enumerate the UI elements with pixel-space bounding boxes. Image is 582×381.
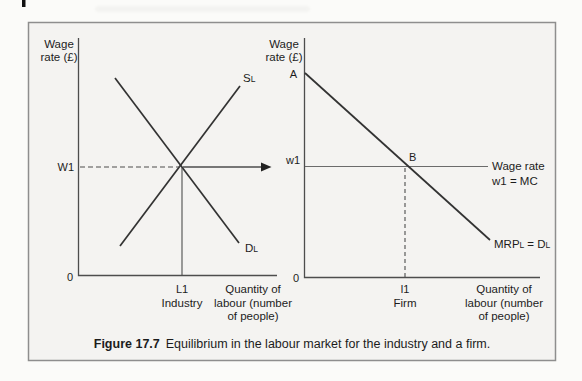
industry-x-axis-title-line3: of people) xyxy=(227,310,278,322)
firm-mrpl-curve-label: MRPL= DL xyxy=(494,238,551,250)
figure-caption: Figure 17.7Equilibrium in the labour mar… xyxy=(94,337,490,351)
industry-x-axis-title-line1: Quantity of xyxy=(225,283,281,295)
industry-wage-level-label: W1 xyxy=(58,161,75,173)
labour-market-diagram: Wage rate (£) W1 0 SL DL L1 Industry Qua… xyxy=(0,0,582,381)
industry-x-axis-title-line2: labour (number xyxy=(214,297,292,309)
firm-point-a-label: A xyxy=(290,68,298,80)
corner-tick-mark xyxy=(22,0,26,7)
firm-x-axis-title-line3: of people) xyxy=(478,310,529,322)
firm-wage-line-label-line2: w1 = MC xyxy=(491,175,538,187)
industry-demand-curve-label: DL xyxy=(245,242,258,254)
firm-panel-name: Firm xyxy=(394,297,417,309)
firm-x-axis-title-line2: labour (number xyxy=(465,297,543,309)
firm-y-axis-title-line2: rate (£) xyxy=(265,51,302,63)
industry-panel-name: Industry xyxy=(162,297,203,309)
figure-caption-text: Equilibrium in the labour market for the… xyxy=(166,337,490,351)
industry-y-axis-title-line2: rate (£) xyxy=(40,51,77,63)
firm-quantity-tick-label: l1 xyxy=(401,283,410,295)
firm-point-b-label: B xyxy=(409,151,416,163)
industry-y-axis-title-line1: Wage xyxy=(44,38,74,50)
firm-y-axis-title-line1: Wage xyxy=(269,38,299,50)
firm-wage-line-label-line1: Wage rate xyxy=(492,160,545,172)
industry-origin-label: 0 xyxy=(67,271,73,283)
firm-wage-level-label: w1 xyxy=(285,154,300,166)
industry-supply-curve-label: SL xyxy=(243,72,256,84)
firm-x-axis-title-line1: Quantity of xyxy=(476,283,532,295)
industry-quantity-tick-label: L1 xyxy=(176,283,188,295)
figure-17-7: Wage rate (£) W1 0 SL DL L1 Industry Qua… xyxy=(0,0,582,381)
figure-caption-number: Figure 17.7 xyxy=(94,337,160,351)
firm-origin-label: 0 xyxy=(293,272,299,284)
